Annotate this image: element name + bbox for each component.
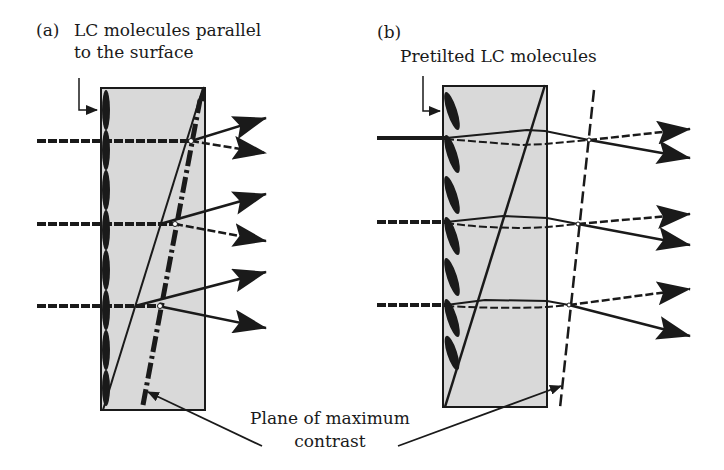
callout-lc-molecules-b (423, 76, 440, 111)
panel-a (37, 78, 266, 446)
incoming-rays-b (377, 138, 446, 305)
plane-label-line2: contrast (248, 431, 412, 451)
plane-label-line1: Plane of maximum (248, 408, 412, 428)
panel-b-label-line1: Pretilted LC molecules (400, 46, 597, 66)
panel-a-tag: (a) (36, 20, 59, 40)
panel-b (377, 76, 690, 446)
panel-a-label-line1: LC molecules parallel (74, 20, 261, 40)
callout-lc-molecules-a (79, 78, 97, 110)
panel-a-label-line2: to the surface (74, 42, 194, 62)
lc-cell-diagram (0, 0, 724, 470)
panel-b-tag: (b) (377, 22, 401, 42)
